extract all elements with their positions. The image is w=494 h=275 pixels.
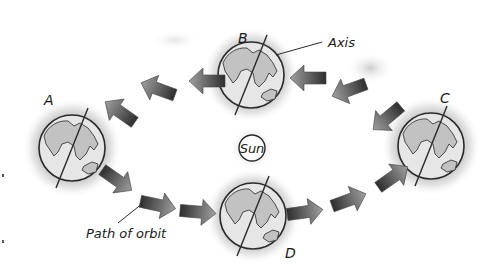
orbit-label: Path of orbit [86, 226, 167, 241]
position-label-a: A [43, 92, 54, 108]
orbit-arrow-icon [328, 182, 371, 219]
sun-label: Sun [240, 141, 265, 156]
orbit-arrow-icon [138, 189, 179, 222]
haze-puff [150, 30, 200, 50]
position-label-b: B [238, 30, 248, 46]
earth-position-d: D [205, 168, 301, 264]
position-label-d: D [285, 245, 296, 261]
edge-mark [2, 174, 4, 177]
edge-mark [2, 240, 4, 243]
axis-label: Axis [327, 35, 355, 50]
sun: Sun [230, 126, 274, 170]
position-label-c: C [440, 90, 450, 106]
haze-puff [346, 52, 394, 84]
orbit-diagram: Sun A B C D Axis Path [0, 0, 494, 275]
orbit-arrow-icon [137, 71, 180, 108]
